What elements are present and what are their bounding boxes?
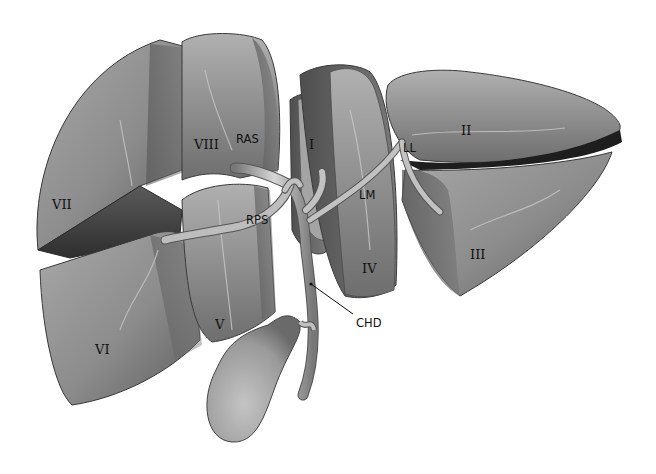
label-ll: LL	[403, 143, 416, 155]
segment-viii-shape	[182, 34, 280, 181]
label-segment-v: V	[215, 318, 224, 331]
label-segment-vii: VII	[52, 198, 72, 211]
segment-ii-shape	[386, 70, 622, 170]
label-rps: RPS	[246, 215, 268, 227]
label-segment-i: I	[309, 138, 314, 151]
label-segment-iv: IV	[362, 262, 377, 275]
liver-segments-illustration: I II III IV V VI VII VIII RAS RPS LM LL …	[0, 0, 656, 474]
label-ras: RAS	[236, 134, 259, 146]
segment-vi-shape	[40, 232, 202, 405]
label-segment-iii: III	[470, 248, 485, 261]
label-chd: CHD	[356, 318, 382, 330]
chd-pointer-dot	[309, 282, 312, 285]
segment-iii-shape	[402, 152, 612, 296]
segment-iv-shape	[300, 65, 397, 298]
label-segment-ii: II	[461, 124, 471, 137]
label-segment-vi: VI	[95, 343, 110, 356]
label-segment-viii: VIII	[194, 138, 219, 151]
segment-vii-shape	[37, 40, 190, 258]
segment-v-shape	[182, 184, 276, 342]
liver-drawing	[0, 0, 656, 474]
label-lm: LM	[359, 190, 375, 202]
